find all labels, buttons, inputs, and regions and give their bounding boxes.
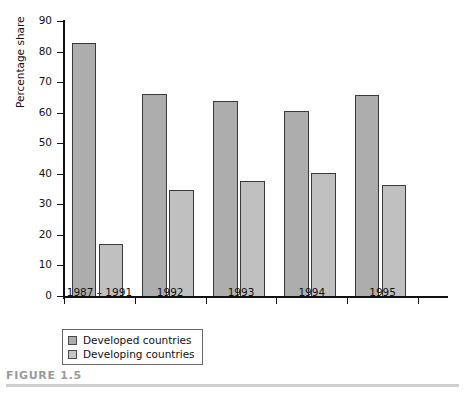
x-axis-tick [418,297,419,304]
x-axis-label: 1987 – 1991 [64,286,135,299]
y-axis-tick-label: 40 [39,167,52,180]
bar-developed [284,111,309,297]
bar-developing [311,173,336,297]
y-axis-line [63,20,65,299]
legend-swatch-icon [68,336,77,345]
caption-divider [6,384,459,387]
legend-swatch-icon [68,350,77,359]
bar-developed [213,101,238,297]
figure-caption: FIGURE 1.5 [6,369,82,382]
legend-item-label: Developed countries [83,334,191,346]
bar-developing [382,185,407,297]
bar-developed [355,95,380,297]
x-axis-label: 1993 [206,286,277,299]
y-axis-tick-label: 30 [39,197,52,210]
y-axis-tick-label: 0 [45,289,52,302]
figure-container: 0102030405060708090 Percentage share 198… [0,0,465,393]
chart-plot-area: 0102030405060708090 [64,22,418,297]
legend-item-label: Developing countries [83,348,195,360]
legend-item: Developed countries [68,333,195,347]
y-axis-tick-label: 50 [39,136,52,149]
x-axis-label: 1992 [135,286,206,299]
x-axis-label: 1995 [347,286,418,299]
y-axis-tick-label: 60 [39,106,52,119]
bar-developing [169,190,194,297]
bar-developed [142,94,167,297]
chart-legend: Developed countriesDeveloping countries [62,329,203,365]
y-axis-tick-label: 80 [39,45,52,58]
y-axis-tick-label: 70 [39,75,52,88]
x-axis-label: 1994 [276,286,347,299]
y-axis-title: Percentage share [14,16,26,108]
y-axis-tick-label: 20 [39,228,52,241]
legend-item: Developing countries [68,347,195,361]
bar-developing [240,181,265,297]
bar-developed [72,43,97,297]
y-axis-tick-label: 90 [39,14,52,27]
y-axis-tick-label: 10 [39,258,52,271]
